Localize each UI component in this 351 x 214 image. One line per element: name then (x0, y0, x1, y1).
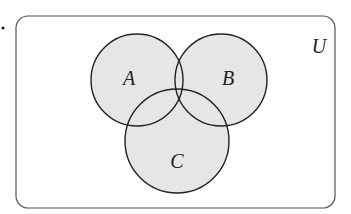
set-label-a: A (121, 67, 136, 89)
universe-label: U (312, 35, 328, 57)
set-label-c: C (170, 150, 184, 172)
venn-diagram: U A B C (0, 0, 351, 214)
bullet-dot (1, 26, 4, 29)
set-label-b: B (222, 67, 234, 89)
